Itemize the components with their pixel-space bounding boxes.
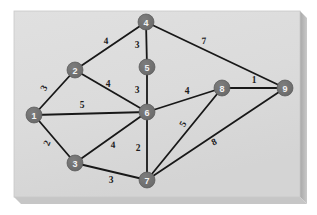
graph-node-8[interactable] [214,80,230,96]
graph-node-4[interactable] [138,14,154,30]
graph-node-5[interactable] [139,59,155,75]
graph-node-6[interactable] [139,104,155,120]
graph-node-9[interactable] [277,80,293,96]
graph-node-3[interactable] [67,155,83,171]
graph-node-1[interactable] [26,107,42,123]
graph-node-2[interactable] [67,62,83,78]
graph-canvas: 352443734324581 123456789 [0,0,317,215]
panel-bottom-face [14,197,307,204]
graph-node-7[interactable] [139,172,155,188]
panel-right-face [300,11,307,204]
graph-figure: 352443734324581 123456789 [0,0,317,215]
